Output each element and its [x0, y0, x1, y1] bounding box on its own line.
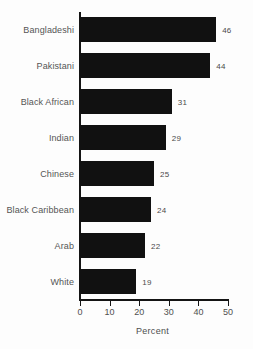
bar	[80, 53, 210, 78]
x-axis-tick-label: 20	[134, 307, 144, 317]
x-axis-tick-label: 0	[77, 307, 82, 317]
category-label: Indian	[49, 133, 74, 143]
x-axis-tick-label: 50	[223, 307, 233, 317]
bar-value-label: 46	[222, 25, 231, 34]
x-axis-tick	[110, 301, 111, 306]
bar	[80, 269, 136, 294]
bar	[80, 233, 145, 258]
x-axis-tick	[228, 301, 229, 306]
bar	[80, 125, 166, 150]
category-label: Pakistani	[37, 61, 74, 71]
bar-value-label: 25	[160, 169, 169, 178]
plot-area: Bangladeshi 46 Pakistani 44 Black Africa…	[80, 17, 228, 300]
bar-value-label: 24	[157, 205, 166, 214]
x-axis-tick-label: 10	[105, 307, 115, 317]
category-label: White	[50, 277, 74, 287]
bar	[80, 197, 151, 222]
x-axis-tick-label: 30	[164, 307, 174, 317]
x-axis-tick	[139, 301, 140, 306]
x-axis-title-text: Percent	[136, 326, 169, 336]
bar-value-label: 29	[172, 133, 181, 142]
bar-value-label: 31	[178, 97, 187, 106]
category-label: Bangladeshi	[23, 25, 74, 35]
bar	[80, 89, 172, 114]
category-label: Black Caribbean	[6, 205, 74, 215]
bar-value-label: 19	[142, 277, 151, 286]
x-axis-tick-label: 40	[193, 307, 203, 317]
category-label: Arab	[55, 241, 74, 251]
x-axis-title: Percent	[0, 326, 253, 336]
bar	[80, 161, 154, 186]
category-label: Chinese	[40, 169, 74, 179]
x-axis-tick	[80, 301, 81, 306]
bar-value-label: 22	[151, 241, 160, 250]
category-label: Black African	[21, 97, 74, 107]
x-axis-tick	[198, 301, 199, 306]
bar	[80, 17, 216, 42]
bar-value-label: 44	[216, 61, 225, 70]
x-axis-tick	[169, 301, 170, 306]
bar-chart: Bangladeshi 46 Pakistani 44 Black Africa…	[0, 0, 253, 349]
